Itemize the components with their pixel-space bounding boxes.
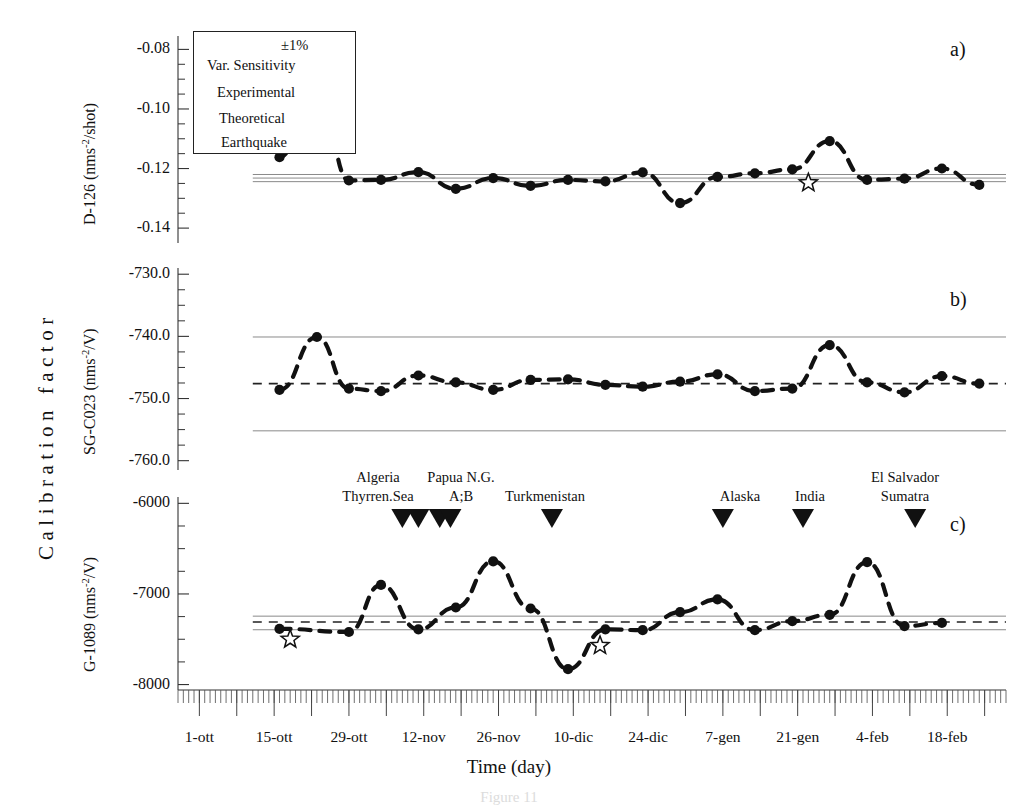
data-point-marker	[488, 385, 498, 395]
legend-label-theoretical: Theoretical	[219, 110, 285, 127]
data-point-marker	[600, 176, 610, 186]
data-point-marker	[638, 625, 648, 635]
data-point-marker	[937, 163, 947, 173]
axis-label-panel-a-sup: -2	[80, 139, 91, 148]
data-point-marker	[413, 370, 423, 380]
experimental-point-marker	[281, 630, 299, 647]
data-point-marker	[376, 386, 386, 396]
y-tick-label: -730.0	[82, 264, 170, 282]
data-point-marker	[638, 167, 648, 177]
data-point-marker	[600, 624, 610, 634]
axis-label-time: Time (day)	[0, 756, 1018, 778]
data-point-marker	[563, 664, 573, 674]
data-point-marker	[787, 616, 797, 626]
axis-label-panel-c: G-1089 (nms-2/V)	[80, 557, 99, 672]
data-point-marker	[899, 387, 909, 397]
data-point-marker	[899, 174, 909, 184]
data-point-marker	[563, 175, 573, 185]
y-tick-label: -8000	[82, 675, 170, 693]
legend-label-var-sensitivity: Var. Sensitivity	[207, 57, 296, 74]
data-point-marker	[862, 175, 872, 185]
data-point-marker	[750, 386, 760, 396]
data-point-marker	[274, 624, 284, 634]
earthquake-label: Turkmenistan	[455, 488, 635, 505]
y-tick-label: -7000	[82, 584, 170, 602]
legend-label-experimental: Experimental	[217, 84, 295, 101]
earthquake-marker-icon	[407, 509, 429, 528]
y-tick-label: -740.0	[82, 326, 170, 344]
data-point-marker	[675, 198, 685, 208]
data-point-marker	[344, 175, 354, 185]
axis-label-panel-b-sup: -2	[80, 350, 91, 359]
data-point-marker	[712, 594, 722, 604]
data-point-marker	[862, 377, 872, 387]
data-point-marker	[312, 332, 322, 342]
y-tick-label: -0.10	[82, 99, 170, 117]
earthquake-label: El Salvador	[815, 469, 995, 486]
axis-label-panel-c-tail: /V)	[81, 557, 98, 578]
data-point-marker	[675, 377, 685, 387]
data-point-marker	[750, 168, 760, 178]
data-point-marker	[413, 624, 423, 634]
panel-letter-c: c)	[950, 513, 966, 536]
data-point-marker	[899, 621, 909, 631]
figure-calibration-factor: Calibration factor D-126 (nms-2/shot) SG…	[0, 0, 1018, 809]
series-line-a	[280, 77, 980, 203]
earthquake-marker-icon	[541, 509, 563, 528]
experimental-point-marker	[799, 173, 817, 190]
earthquake-label: Papua N.G.	[371, 469, 551, 486]
data-point-marker	[526, 181, 536, 191]
data-point-marker	[376, 175, 386, 185]
y-tick-label: -6000	[82, 493, 170, 511]
x-tick-label: 18-feb	[897, 728, 997, 746]
data-point-marker	[862, 557, 872, 567]
axis-label-panel-b-text: SG-C023 (nms	[81, 359, 98, 455]
data-point-marker	[413, 167, 423, 177]
earthquake-marker-icon	[792, 509, 814, 528]
data-point-marker	[825, 610, 835, 620]
legend-label-earthquake: Earthquake	[221, 134, 287, 151]
data-point-marker	[787, 164, 797, 174]
y-tick-label: -0.14	[82, 218, 170, 236]
y-tick-label: -760.0	[82, 451, 170, 469]
data-point-marker	[712, 172, 722, 182]
data-point-marker	[344, 627, 354, 637]
data-point-marker	[974, 180, 984, 190]
data-point-marker	[712, 369, 722, 379]
data-point-marker	[937, 618, 947, 628]
data-point-marker	[526, 375, 536, 385]
data-point-marker	[825, 340, 835, 350]
panel-letter-b: b)	[950, 288, 967, 311]
data-point-marker	[750, 625, 760, 635]
data-point-marker	[974, 379, 984, 389]
y-tick-label: -0.12	[82, 159, 170, 177]
data-point-marker	[488, 556, 498, 566]
data-point-marker	[937, 371, 947, 381]
axis-label-calibration-factor: Calibration factor	[34, 312, 59, 560]
data-point-marker	[451, 377, 461, 387]
data-point-marker	[451, 184, 461, 194]
data-point-marker	[526, 603, 536, 613]
y-tick-label: -0.08	[82, 39, 170, 57]
data-point-marker	[451, 602, 461, 612]
y-tick-label: -750.0	[82, 389, 170, 407]
data-point-marker	[787, 384, 797, 394]
data-point-marker	[344, 384, 354, 394]
data-point-marker	[638, 382, 648, 392]
data-point-marker	[274, 385, 284, 395]
data-point-marker	[488, 173, 498, 183]
data-point-marker	[825, 136, 835, 146]
panel-letter-a: a)	[950, 38, 966, 61]
earthquake-label: Sumatra	[815, 488, 995, 505]
earthquake-marker-icon	[712, 509, 734, 528]
data-point-marker	[600, 380, 610, 390]
legend-label-tolerance: ±1%	[281, 37, 308, 54]
data-point-marker	[376, 580, 386, 590]
series-line-c	[280, 561, 942, 669]
data-point-marker	[675, 607, 685, 617]
figure-caption: Figure 11	[0, 789, 1018, 806]
data-point-marker	[563, 374, 573, 384]
earthquake-marker-icon	[904, 509, 926, 528]
